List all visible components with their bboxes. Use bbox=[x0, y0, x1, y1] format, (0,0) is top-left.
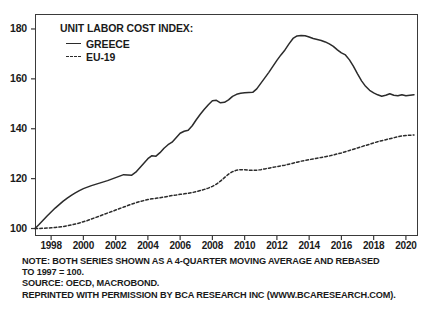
note-line: SOURCE: OECD, MACROBOND. bbox=[22, 278, 434, 289]
series-line-eu19 bbox=[35, 135, 414, 229]
legend-label-eu19: EU-19 bbox=[86, 51, 115, 63]
legend-title: UNIT LABOR COST INDEX: bbox=[60, 22, 193, 34]
y-tick-label: 120 bbox=[1, 172, 27, 184]
chart-footnotes: NOTE: BOTH SERIES SHOWN AS A 4-QUARTER M… bbox=[22, 256, 434, 301]
x-tick-label: 2004 bbox=[131, 240, 165, 251]
x-tick-label: 2018 bbox=[357, 240, 391, 251]
legend-item-eu19: EU-19 bbox=[60, 50, 193, 63]
x-tick-label: 2020 bbox=[389, 240, 423, 251]
x-tick-label: 2010 bbox=[228, 240, 262, 251]
legend-key-solid-icon bbox=[66, 39, 82, 49]
unit-labor-cost-chart: 100120140160180 199820002002200420062008… bbox=[0, 0, 438, 314]
x-tick-label: 1998 bbox=[34, 240, 68, 251]
y-tick-label: 160 bbox=[1, 72, 27, 84]
x-tick-label: 2002 bbox=[99, 240, 133, 251]
y-axis-ticks bbox=[31, 29, 35, 229]
y-tick-label: 100 bbox=[1, 222, 27, 234]
x-tick-label: 2016 bbox=[324, 240, 358, 251]
series-line-greece bbox=[35, 35, 414, 228]
legend-key-dashed-icon bbox=[66, 52, 82, 62]
x-tick-label: 2014 bbox=[292, 240, 326, 251]
x-tick-label: 2008 bbox=[195, 240, 229, 251]
x-tick-label: 2012 bbox=[260, 240, 294, 251]
note-line: REPRINTED WITH PERMISSION BY BCA RESEARC… bbox=[22, 290, 434, 301]
y-tick-label: 140 bbox=[1, 122, 27, 134]
note-line: TO 1997 = 100. bbox=[22, 267, 434, 278]
x-tick-label: 2006 bbox=[163, 240, 197, 251]
y-tick-label: 180 bbox=[1, 22, 27, 34]
x-tick-label: 2000 bbox=[66, 240, 100, 251]
legend-item-greece: GREECE bbox=[60, 37, 193, 50]
legend-label-greece: GREECE bbox=[86, 38, 130, 50]
note-line: NOTE: BOTH SERIES SHOWN AS A 4-QUARTER M… bbox=[22, 256, 434, 267]
chart-legend: UNIT LABOR COST INDEX: GREECE EU-19 bbox=[60, 22, 193, 63]
